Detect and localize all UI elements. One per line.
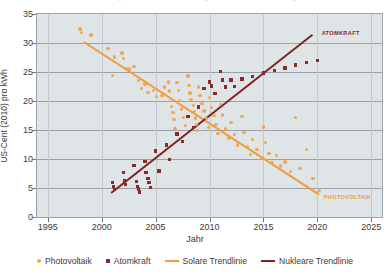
legend-item[interactable]: Solare Trendlinie bbox=[165, 256, 248, 266]
x-tick-label: 2025 bbox=[361, 222, 381, 232]
x-tick-label: 1995 bbox=[38, 222, 58, 232]
x-tick-mark bbox=[156, 218, 157, 222]
legend-item-label: Solare Trendlinie bbox=[183, 256, 248, 266]
legend-swatch-line-nuclear-icon bbox=[261, 260, 275, 262]
x-tick-mark bbox=[371, 218, 372, 222]
chart-legend: PhotovoltaikAtomkraftSolare TrendlinieNu… bbox=[0, 256, 390, 266]
legend-item[interactable]: Nukleare Trendlinie bbox=[261, 256, 353, 266]
x-tick-label: 2005 bbox=[146, 222, 166, 232]
legend-item-label: Nukleare Trendlinie bbox=[279, 256, 353, 266]
x-axis-title: Jahr bbox=[0, 234, 390, 244]
legend-item-label: Photovoltaik bbox=[45, 256, 92, 266]
x-tick-label: 2020 bbox=[307, 222, 327, 232]
x-tick-mark bbox=[263, 218, 264, 222]
chart-figure: ▪ ▪ ▪ US-Cent (2010) pro kWh ATOMKRAFTPH… bbox=[0, 0, 390, 277]
legend-item[interactable]: Photovoltaik bbox=[37, 256, 92, 266]
x-tick-label: 2010 bbox=[199, 222, 219, 232]
legend-swatch-line-solar-icon bbox=[165, 260, 179, 262]
legend-item[interactable]: Atomkraft bbox=[106, 256, 151, 266]
x-tick-mark bbox=[317, 218, 318, 222]
x-tick-label: 2000 bbox=[92, 222, 112, 232]
x-tick-label: 2015 bbox=[253, 222, 273, 232]
x-tick-mark bbox=[102, 218, 103, 222]
legend-item-label: Atomkraft bbox=[114, 256, 151, 266]
legend-swatch-dot-icon bbox=[37, 259, 41, 263]
legend-swatch-square-icon bbox=[106, 259, 110, 263]
x-tick-mark bbox=[210, 218, 211, 222]
x-tick-mark bbox=[48, 218, 49, 222]
